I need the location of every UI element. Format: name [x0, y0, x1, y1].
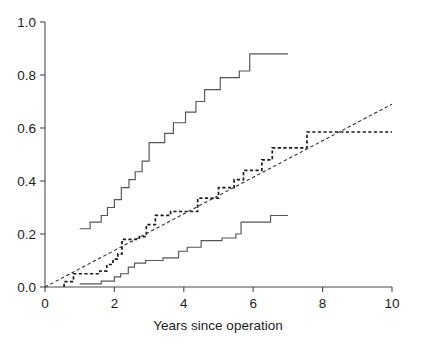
- y-tick-label: 0.6: [17, 121, 36, 136]
- x-tick-label: 0: [41, 296, 49, 311]
- y-tick-label: 0.4: [17, 174, 36, 189]
- chart-background: [0, 0, 424, 345]
- y-tick-label: 1.0: [17, 15, 36, 30]
- x-tick-label: 8: [319, 296, 327, 311]
- x-tick-label: 6: [249, 296, 257, 311]
- y-tick-label: 0.0: [17, 280, 36, 295]
- y-tick-label: 0.8: [17, 68, 36, 83]
- survival-step-chart: 0.00.20.40.60.81.0 0246810 Years since o…: [0, 0, 424, 345]
- x-axis-title: Years since operation: [153, 318, 282, 333]
- x-tick-label: 4: [180, 296, 188, 311]
- y-tick-label: 0.2: [17, 227, 36, 242]
- chart-container: 0.00.20.40.60.81.0 0246810 Years since o…: [0, 0, 424, 345]
- x-tick-label: 10: [384, 296, 399, 311]
- x-tick-label: 2: [111, 296, 119, 311]
